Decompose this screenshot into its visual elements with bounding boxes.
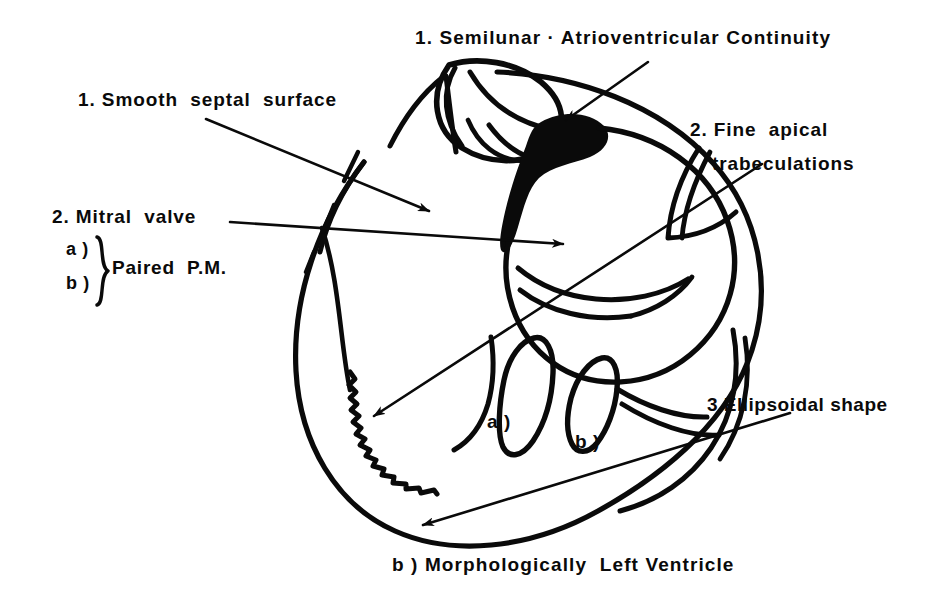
- label-mitral-valve: 2. Mitral valve: [52, 205, 196, 229]
- label-papillary-muscle-a: a ): [487, 410, 511, 434]
- mitral-leaflet-anterior: [518, 268, 688, 300]
- trabecula-strand-right: [617, 389, 707, 417]
- label-smooth-septal-surface: 1. Smooth septal surface: [78, 88, 337, 112]
- label-paired-pm: Paired P.M.: [112, 256, 227, 280]
- label-ellipsoidal-shape: 3.Ellipsoidal shape: [707, 393, 888, 417]
- figure-caption: b ) Morphologically Left Ventricle: [392, 553, 735, 577]
- label-fine-apical-trabeculations-line1: 2. Fine apical: [690, 118, 828, 142]
- label-paired-pm-b: b ): [66, 272, 90, 295]
- label-fine-apical-trabeculations-line2: trabeculations: [712, 152, 854, 176]
- paired-pm-brace: [93, 234, 113, 308]
- endocardial-left-contour: [322, 228, 350, 390]
- label-semilunar-continuity: 1. Semilunar · Atrioventricular Continui…: [415, 26, 831, 50]
- arrow-fine-apical-trabeculations: [374, 164, 762, 416]
- label-papillary-muscle-b: b ): [575, 430, 600, 454]
- label-paired-pm-a: a ): [66, 238, 89, 261]
- apical-trabeculations-serrated: [349, 372, 437, 494]
- figure-root: 1. Semilunar · Atrioventricular Continui…: [0, 0, 951, 591]
- fibrous-continuity-mass: [500, 114, 608, 252]
- arrow-semilunar-continuity: [566, 62, 648, 120]
